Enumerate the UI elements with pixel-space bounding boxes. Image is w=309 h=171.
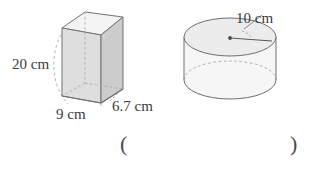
- cylinder-radius-label: 10 cm: [236, 11, 273, 26]
- rectangular-prism-shape: [54, 12, 123, 106]
- answer-close-paren: ): [290, 133, 297, 155]
- figure-canvas: 20 cm 9 cm 6.7 cm 10 cm ( ): [0, 0, 309, 171]
- cylinder-center-dot: [228, 36, 232, 40]
- cylinder-shape: [184, 15, 276, 99]
- prism-depth-label: 6.7 cm: [112, 99, 153, 114]
- prism-height-label: 20 cm: [12, 57, 49, 72]
- prism-front-face: [62, 28, 101, 103]
- prism-width-label: 9 cm: [56, 107, 86, 122]
- answer-open-paren: (: [120, 133, 127, 155]
